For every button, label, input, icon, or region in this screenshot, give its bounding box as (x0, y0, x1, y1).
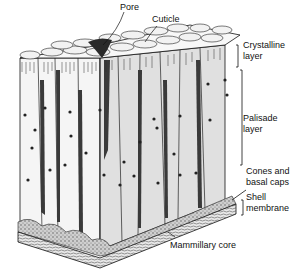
label-membrane-line1: Shell (246, 192, 289, 203)
label-cuticle: Cuticle (152, 14, 180, 25)
label-crystalline-line1: Crystalline (243, 40, 285, 51)
label-mammillary-core: Mammillary core (170, 240, 236, 251)
label-cones-line2: basal caps (246, 177, 290, 188)
label-crystalline-line2: layer (243, 51, 285, 62)
label-cones-line1: Cones and (246, 166, 290, 177)
label-crystalline-layer: Crystalline layer (243, 40, 285, 62)
eggshell-diagram: Pore Cuticle Crystalline layer Palisade … (0, 0, 305, 280)
label-cones-basal-caps: Cones and basal caps (246, 166, 290, 188)
label-membrane-line2: membrane (246, 203, 289, 214)
label-palisade-layer: Palisade layer (243, 113, 278, 135)
label-pore: Pore (120, 2, 139, 13)
label-shell-membrane: Shell membrane (246, 192, 289, 214)
label-palisade-line2: layer (243, 124, 278, 135)
label-palisade-line1: Palisade (243, 113, 278, 124)
